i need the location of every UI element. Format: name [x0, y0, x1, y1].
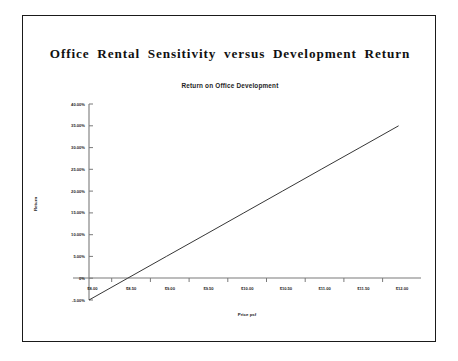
document-page: Office Rental Sensitivity versus Develop… [22, 15, 436, 342]
x-tick-label: $12.00 [396, 286, 409, 291]
y-tick-label: 30.00% [71, 145, 85, 150]
y-tick-label: 10.00% [71, 232, 85, 237]
x-tick-label: $11.50 [357, 286, 370, 291]
y-tick-label: 15.00% [71, 210, 85, 215]
x-tick-label: $10.50 [280, 286, 293, 291]
y-tick-label: -5.00% [72, 298, 85, 303]
x-tick-label: $11.00 [318, 286, 331, 291]
series-line-return [89, 126, 399, 300]
y-tick-label: 35.00% [71, 123, 85, 128]
y-axis-ticks [89, 104, 93, 300]
x-axis-title: Price psf [238, 312, 257, 317]
x-tick-label: $8.00 [87, 286, 98, 291]
y-tick-label: 0% [79, 276, 85, 281]
y-tick-label: 20.00% [71, 189, 85, 194]
x-axis-tick-labels: $8.00 $8.50 $9.00 $9.50 $10.00 $10.50 $1… [87, 286, 409, 291]
x-tick-label: $9.50 [203, 286, 214, 291]
y-tick-label: 5.00% [73, 254, 85, 259]
x-tick-label: $10.00 [241, 286, 254, 291]
y-tick-label: 40.00% [71, 102, 85, 107]
x-tick-label: $8.50 [126, 286, 137, 291]
y-axis-title: Return [33, 197, 38, 211]
screenshot-root: Office Rental Sensitivity versus Develop… [0, 0, 458, 361]
chart-canvas: 40.00% 35.00% 30.00% 25.00% 20.00% 15.00… [23, 16, 437, 343]
return-line-chart: 40.00% 35.00% 30.00% 25.00% 20.00% 15.00… [23, 16, 437, 343]
y-tick-label: 25.00% [71, 167, 85, 172]
y-axis-tick-labels: 40.00% 35.00% 30.00% 25.00% 20.00% 15.00… [71, 102, 85, 303]
x-axis-ticks [112, 278, 383, 282]
x-tick-label: $9.00 [165, 286, 176, 291]
